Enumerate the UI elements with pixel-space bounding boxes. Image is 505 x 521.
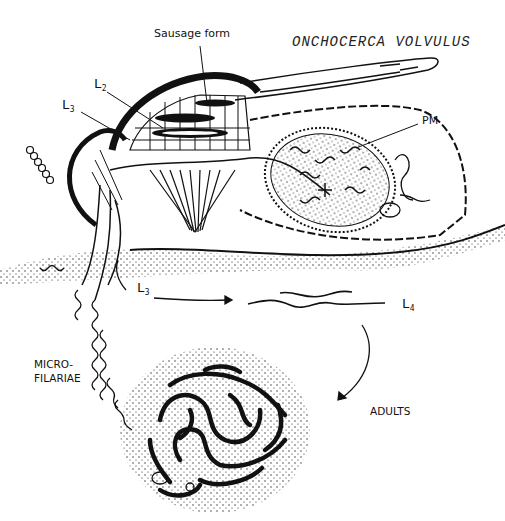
label-l3-skin: L3 [137,280,150,295]
label-adults: ADULTS [370,405,410,417]
larval-development-arrow [154,296,232,304]
label-l3-fly-subscript: 3 [70,105,75,114]
label-l3-fly-letter: L [62,97,70,112]
label-l2-subscript: 2 [102,84,107,93]
label-microfilariae-line1: MICRO- [34,357,81,371]
fly-wing [235,58,438,100]
label-l2: L2 [94,76,107,91]
fly-antenna [27,147,54,184]
host-skin [0,225,505,285]
label-l3-fly: L3 [62,97,75,112]
diagram-illustration [0,0,505,521]
fly-mouthparts [82,185,120,300]
onchocerca-life-cycle-diagram: ONCHOCERCA VOLVULUS Sausage form L2 L3 P… [0,0,505,521]
adult-development-arrow [338,325,369,400]
label-sausage-form: Sausage form [154,27,230,40]
fly-thorax [112,76,258,150]
label-microfilariae-line2: FILARIAE [34,371,81,385]
label-pm: PM [422,114,438,127]
label-l3-skin-subscript: 3 [145,288,150,297]
leader-lines [81,46,418,148]
adult-worm-nodule [120,347,310,513]
l4-larvae [248,291,385,307]
label-l4-subscript: 4 [410,304,415,313]
label-l3-skin-letter: L [137,280,145,295]
microfilariae-worms [40,260,132,430]
label-l2-letter: L [94,76,102,91]
diagram-title: ONCHOCERCA VOLVULUS [292,34,471,50]
label-microfilariae: MICRO- FILARIAE [34,357,81,385]
label-l4: L4 [402,296,415,311]
label-l4-letter: L [402,296,410,311]
